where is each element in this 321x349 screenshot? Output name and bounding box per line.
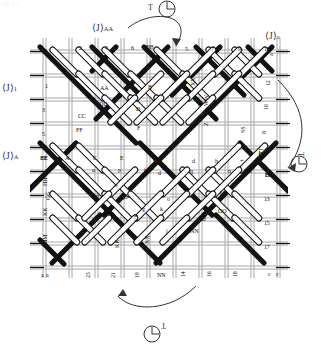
edge-label-left: KK [42,208,48,216]
angle-subscript: AA [104,25,113,32]
cell-label: * [66,167,69,173]
cell-label: b [156,156,159,162]
edge-label-bottom: 14 [180,271,186,277]
angle-subscript: a [277,33,280,40]
edge-label-right: c [268,271,270,277]
cell-label: d [158,170,161,176]
edge-label-bottom: NN [157,272,165,278]
edge-label-top: 9 [40,45,43,51]
interior-label: F [137,125,140,131]
edge-label-right: 10 [263,104,269,110]
angle-annotation-left-upper: ⟨J⟩1 [2,82,17,93]
interior-label: OO [218,208,226,214]
angle-annotation-top-left: ⟨J⟩AA [92,22,113,33]
interior-label: E [120,155,123,161]
interior-label: XX [190,78,196,86]
cell-label: o [167,196,170,202]
edge-label-top: 7 [211,46,214,52]
cell-label: p [118,167,121,173]
cell-label: u [92,167,95,173]
interior-label: TT [258,148,264,155]
interior-label: d [192,158,195,164]
interior-label: bb [220,190,226,196]
edge-label-right: 17 [264,244,270,250]
interior-label: CC [78,113,86,119]
angle-bracket-j: ⟨J⟩ [2,151,14,161]
interior-label: GG [45,192,51,200]
figure-canvas: Fig. 2-1 [0,0,321,349]
interior-label: NN [190,228,198,234]
interior-label: BB [244,168,252,174]
interior-label: WW [203,95,209,106]
interior-label: h [215,158,218,164]
edge-label-right: a [268,54,274,56]
edge-label-top: 11 [264,46,269,52]
edge-label-bottom: 19 [134,272,140,278]
cell-label: q [190,168,193,174]
angle-bracket-j: ⟨J⟩ [92,23,104,33]
edge-label-top: 5 [185,46,188,52]
interior-label: EE [41,155,48,161]
interior-label: AA [100,85,108,91]
edge-label-bottom: 21 [110,272,116,278]
edge-label-right: 15 [264,220,270,226]
cell-label: g [142,206,145,212]
edge-label-left: a [41,272,43,278]
edge-label-bottom: 23 [85,272,91,278]
angle-annotation-left-lower: ⟨J⟩A [2,150,18,161]
edge-label-top: 9 [238,46,241,52]
angle-subscript: A [14,153,19,160]
angle-bracket-j: ⟨J⟩ [2,83,14,93]
cell-label: j [166,228,167,234]
interior-label: TT [122,193,128,200]
interior-label: SS [240,127,246,133]
edge-label-top: 6 [131,45,134,51]
interior-label: D [136,106,140,112]
interior-label: XX [144,236,150,244]
cell-label: n [228,168,231,174]
interior-label: FF [76,127,82,133]
bottom-rotation-label: T [161,321,166,330]
interior-label: + [240,158,243,164]
interior-label: VV [133,214,139,222]
interior-label: LL [94,193,100,200]
cell-label: k [160,206,163,212]
right-rotation-label: T [296,152,305,157]
interior-label: dd [200,216,206,222]
edge-label-left: 3 [42,107,45,113]
edge-label-bottom: 18 [232,271,238,277]
interior-label: B [148,84,152,90]
interior-label: C [93,155,97,161]
edge-label-left: MM [42,235,48,245]
edge-label-right: 12 [265,80,271,86]
edge-label-bottom: 16 [206,271,212,277]
interior-label: Z [203,123,209,126]
cell-label: f [144,167,146,173]
interior-label: DD [99,101,107,107]
top-rotation-label: T [148,3,153,12]
interior-label: KK [114,240,120,248]
interior-label: A [65,155,69,161]
edge-label-top: 4 [105,45,108,51]
angle-subscript: 1 [14,85,17,92]
angle-annotation-top-right: ⟨J⟩a [265,30,280,41]
edge-label-right: 13 [264,196,270,202]
edge-label-top: BB [146,44,154,50]
cell-label: c [276,271,278,277]
edge-label-right: 8 [261,131,267,134]
edge-label-bottom: a [46,272,48,278]
edge-label-left: 1 [45,83,48,89]
angle-bracket-j: ⟨J⟩ [265,31,277,41]
edge-label-top: 2 [79,45,82,51]
interior-label: JJ [70,174,76,178]
cell-label: e [115,182,117,188]
interior-label: DD [265,172,273,178]
edge-label-left: 5 [42,131,45,137]
edge-label-left: HH [42,178,48,186]
